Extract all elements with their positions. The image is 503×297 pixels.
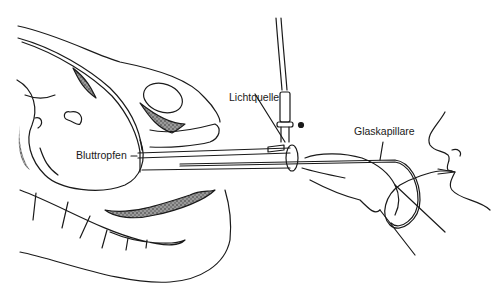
tissue-shading bbox=[140, 103, 185, 133]
label-bluttropfen: Bluttropfen bbox=[76, 150, 127, 161]
face bbox=[429, 112, 490, 210]
label-glaskapillare: Glaskapillare bbox=[354, 126, 415, 137]
hand bbox=[302, 154, 445, 255]
uterus-wall bbox=[18, 26, 220, 152]
label-lichtquelle: Lichtquelle bbox=[229, 92, 279, 103]
rectum-shading bbox=[105, 190, 215, 218]
glaskapillare-leader bbox=[380, 142, 383, 160]
tissue-shading-upper bbox=[73, 68, 96, 98]
fetal-head bbox=[17, 80, 143, 190]
sacrum bbox=[20, 190, 231, 282]
figure-canvas: Lichtquelle Glaskapillare Bluttropfen bbox=[0, 0, 503, 297]
hair-shading bbox=[19, 125, 30, 170]
glass-capillary bbox=[180, 160, 452, 228]
amnioscope bbox=[138, 145, 298, 172]
light-source bbox=[268, 18, 304, 152]
